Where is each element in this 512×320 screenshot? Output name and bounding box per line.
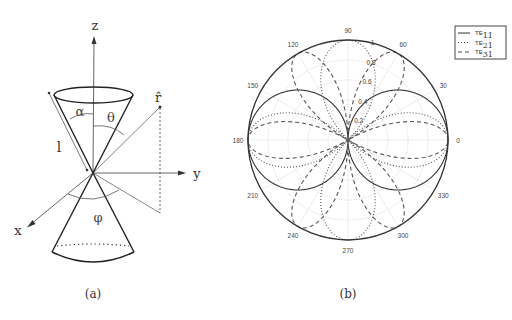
z-axis-label: z [92,18,99,33]
top-cone-edge-right [93,95,133,173]
length-label: l [57,139,62,155]
angle-tick-label: 120 [288,41,299,48]
z-axis [93,40,94,173]
angle-tick-label: 210 [247,192,258,199]
x-axis-label: x [14,223,22,238]
y-axis-label: y [192,166,201,181]
angle-tick-label: 90 [344,27,352,34]
angle-tick-label: 330 [438,192,449,199]
phi-arc [68,190,119,199]
angle-grid-spoke [261,90,348,140]
length-end-top [48,92,51,95]
rhat-line [93,107,160,173]
angle-grid-spoke [261,140,348,190]
angle-tick-label: 60 [399,41,407,48]
cone-diagram: z y x α θ φ l r̂ (a) [14,18,201,301]
alpha-label: α [76,104,85,119]
bottom-cone-edge-left [52,173,93,252]
angle-tick-label: 150 [247,82,258,89]
bottom-cone-rim-back [57,244,129,246]
theta-label: θ [107,110,115,125]
length-end-bottom [86,169,89,172]
angle-tick-label: 270 [343,247,354,254]
radial-tick-label: 0.6 [363,78,372,85]
bottom-cone-rim-front [52,252,134,262]
z-arrow-icon [92,36,97,44]
top-cone-edge-left [54,95,93,173]
rhat-label: r̂ [155,90,162,105]
angle-tick-label: 300 [398,232,409,239]
angle-tick-label: 180 [233,137,244,144]
radial-tick-label: 1 [371,39,375,46]
radial-tick-label: 0.4 [358,98,367,105]
figure-canvas: z y x α θ φ l r̂ (a) 0306090120150180210… [0,0,512,320]
phi-label: φ [93,210,102,225]
polar-chart: 0306090120150180210240270300330 0.20.40.… [233,27,461,254]
theta-arc [93,126,124,135]
angle-tick-label: 0 [456,137,460,144]
caption-b: (b) [339,287,356,301]
angle-grid-spoke [348,140,435,190]
legend: TE11TE21TE31 [455,26,506,59]
y-arrow-icon [178,171,186,176]
radial-tick-label: 0.2 [354,117,363,124]
radial-tick-label: 0.8 [367,59,376,66]
angle-tick-label: 240 [288,232,299,239]
caption-a: (a) [85,287,102,301]
angle-tick-label: 30 [440,82,448,89]
